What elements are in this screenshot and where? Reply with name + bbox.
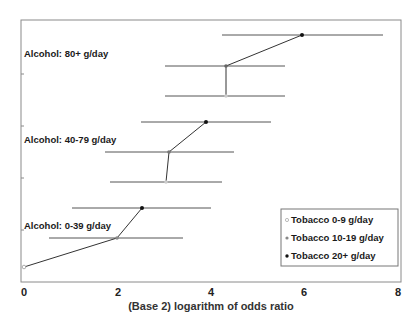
group-label-alcohol-40-79: Alcohol: 40-79 g/day	[24, 134, 117, 145]
group-label-alcohol-0-39: Alcohol: 0-39 g/day	[24, 220, 112, 231]
legend-item-tobacco-0-9: Tobacco 0-9 g/day	[291, 214, 374, 225]
marker-40-79-tob10-19	[167, 150, 171, 154]
legend: Tobacco 0-9 g/day Tobacco 10-19 g/day To…	[281, 209, 398, 266]
markers	[22, 33, 304, 269]
marker-0-39-tob10-19	[115, 236, 119, 240]
legend-gray-dot-icon	[285, 236, 288, 239]
x-tick-2: 2	[115, 286, 121, 298]
legend-open-circle-icon	[285, 218, 288, 221]
x-tick-8: 8	[395, 286, 401, 298]
group-label-alcohol-80plus: Alcohol: 80+ g/day	[24, 48, 109, 59]
legend-item-tobacco-10-19: Tobacco 10-19 g/day	[291, 232, 384, 243]
marker-80plus-tob10-19	[224, 64, 228, 68]
forest-plot: 0 2 4 6 8 (Base 2) logarithm of odds rat…	[0, 0, 419, 325]
marker-0-39-tob0-9	[22, 265, 26, 269]
marker-80plus-tob0-9	[224, 94, 228, 98]
legend-item-tobacco-20plus: Tobacco 20+ g/day	[291, 250, 376, 261]
x-tick-0: 0	[21, 286, 27, 298]
x-axis-title: (Base 2) logarithm of odds ratio	[128, 300, 294, 312]
x-tick-4: 4	[208, 286, 215, 298]
legend-black-dot-icon	[285, 254, 288, 257]
marker-40-79-tob20plus	[204, 120, 208, 124]
x-tick-6: 6	[301, 286, 307, 298]
marker-0-39-tob20plus	[140, 206, 144, 210]
marker-80plus-tob20plus	[300, 33, 304, 37]
marker-40-79-tob0-9	[164, 180, 168, 184]
x-tick-labels: 0 2 4 6 8	[21, 286, 401, 298]
connectors	[24, 35, 302, 267]
